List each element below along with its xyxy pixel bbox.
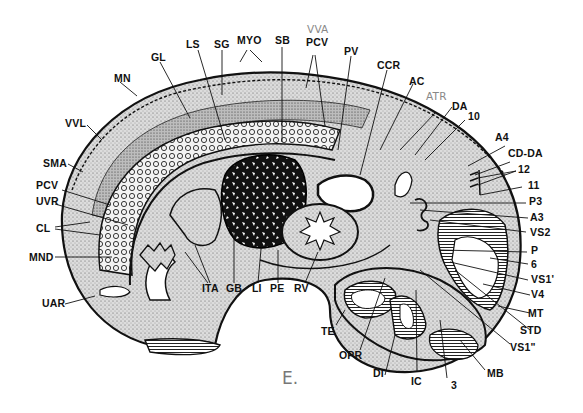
- label-3: 3: [451, 380, 457, 391]
- label-ATR: ATR: [426, 91, 447, 102]
- label-AC: AC: [409, 76, 425, 87]
- label-VVL: VVL: [65, 118, 86, 129]
- embryo-diagram: [0, 0, 583, 413]
- label-11: 11: [528, 180, 540, 191]
- label-ITA: ITA: [202, 283, 219, 294]
- label-P3: P3: [529, 196, 542, 207]
- embryo-section-figure: GL LS SG MYO SB VVA PCV PV CCR AC ATR DA…: [0, 0, 583, 413]
- label-10: 10: [468, 111, 480, 122]
- label-MYO: MYO: [237, 35, 262, 46]
- label-PV: PV: [344, 46, 358, 57]
- label-DI: DI: [373, 368, 384, 379]
- label-SMA: SMA: [43, 158, 67, 169]
- label-MT: MT: [528, 308, 544, 319]
- label-UVR: UVR: [36, 196, 59, 207]
- label-12: 12: [518, 164, 530, 175]
- label-MB: MB: [487, 368, 504, 379]
- label-A3: A3: [530, 212, 544, 223]
- label-GB: GB: [226, 283, 242, 294]
- label-CL: CL: [36, 223, 50, 234]
- label-V4: V4: [531, 289, 544, 300]
- label-RV: RV: [294, 283, 309, 294]
- label-LI: LI: [252, 283, 262, 294]
- label-LS: LS: [186, 39, 200, 50]
- label-SG: SG: [214, 39, 230, 50]
- label-6: 6: [531, 259, 537, 270]
- label-MN: MN: [114, 73, 131, 84]
- label-DA: DA: [452, 101, 468, 112]
- label-VS1-double-prime: VS1": [510, 342, 536, 353]
- label-PE: PE: [270, 283, 284, 294]
- label-VVA: VVA: [307, 24, 328, 35]
- label-UAR: UAR: [42, 298, 65, 309]
- label-PCV-left: PCV: [36, 180, 58, 191]
- label-P: P: [531, 245, 538, 256]
- label-CCR: CCR: [377, 60, 400, 71]
- label-A4: A4: [495, 132, 509, 143]
- label-VS2: VS2: [530, 227, 550, 238]
- label-TE: TE: [321, 326, 335, 337]
- label-SB: SB: [275, 35, 290, 46]
- label-PCV-top: PCV: [306, 37, 328, 48]
- label-OPR: OPR: [339, 350, 362, 361]
- label-CD-DA: CD-DA: [508, 148, 543, 159]
- label-IC: IC: [411, 376, 422, 387]
- figure-caption: E.: [282, 368, 298, 388]
- label-GL: GL: [151, 52, 166, 63]
- label-VS1-prime: VS1': [531, 274, 554, 285]
- label-STD: STD: [520, 325, 542, 336]
- label-MND: MND: [29, 252, 54, 263]
